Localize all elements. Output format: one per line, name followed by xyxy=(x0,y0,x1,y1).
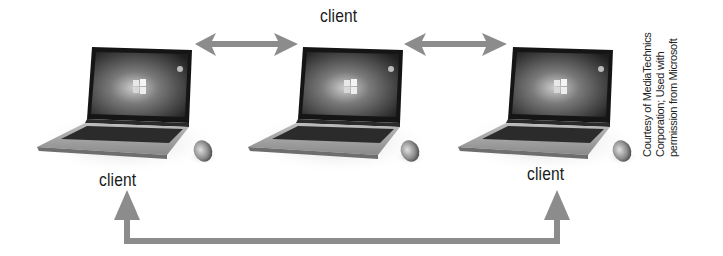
label-client-right: client xyxy=(527,163,564,185)
network-diagram xyxy=(0,0,723,256)
bracket-arrow-left-right xyxy=(114,190,570,244)
credit-line-3: permission from Microsoft xyxy=(667,0,680,157)
label-client-top: client xyxy=(320,5,357,27)
double-arrow-left-middle xyxy=(195,33,298,56)
image-credit: Courtesy of MediaTechnics Corporation; U… xyxy=(641,0,680,157)
credit-line-2: Corporation; Used with xyxy=(654,0,667,157)
label-client-left: client xyxy=(99,169,136,191)
double-arrow-middle-right xyxy=(404,33,507,56)
credit-line-1: Courtesy of MediaTechnics xyxy=(641,0,654,157)
